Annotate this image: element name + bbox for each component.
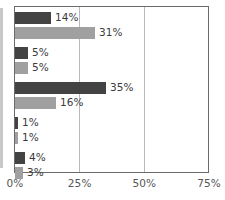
tick-label-25: 25% (68, 176, 92, 190)
bar-series-2-2 (15, 97, 56, 109)
bar-series-2-0 (15, 27, 95, 39)
bar-value-label: 31% (99, 26, 123, 39)
bar-value-label: 1% (22, 116, 39, 129)
x-axis-tick-labels: 0%25%50%75% (0, 176, 225, 194)
bar-value-label: 5% (32, 46, 49, 59)
tick-label-75: 75% (197, 176, 221, 190)
bar-value-label: 14% (55, 11, 79, 24)
bar-series-1-0 (15, 12, 51, 24)
bar-group: 1%1% (15, 117, 209, 144)
bar-series-2-1 (15, 62, 28, 74)
bar-value-label: 4% (29, 151, 46, 164)
bar-chart: 14%31%5%5%35%16%1%1%4%3% 0%25%50%75% (0, 0, 225, 200)
bar-group: 35%16% (15, 82, 209, 109)
bar-series-1-2 (15, 82, 106, 94)
bar-group: 14%31% (15, 12, 209, 39)
bar-series-1-1 (15, 47, 28, 59)
bar-series-2-3 (15, 132, 18, 144)
bar-value-label: 35% (110, 81, 134, 94)
bar-group: 5%5% (15, 47, 209, 74)
tick-label-50: 50% (133, 176, 157, 190)
bars-layer: 14%31%5%5%35%16%1%1%4%3% (15, 7, 209, 173)
bar-group: 4%3% (15, 152, 209, 179)
tick-label-0: 0% (7, 176, 24, 190)
bar-value-label: 16% (60, 96, 84, 109)
cropped-edge-artifact (0, 8, 3, 168)
bar-series-1-3 (15, 117, 18, 129)
bar-value-label: 5% (32, 61, 49, 74)
bar-value-label: 1% (22, 131, 39, 144)
bar-series-1-4 (15, 152, 25, 164)
